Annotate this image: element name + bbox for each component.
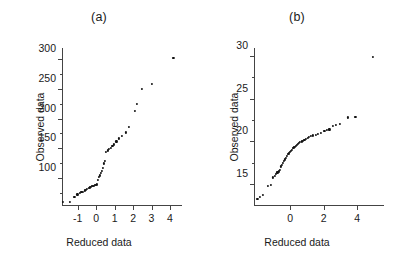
panel-b-point: [274, 175, 276, 177]
panel-a-x-tick-label: 3: [149, 212, 155, 224]
panel-b: (b) 15202530 024 Observed data Reduced d…: [198, 0, 396, 267]
panel-a-point: [151, 83, 153, 85]
panel-a-y-tick: [58, 89, 62, 90]
panel-b-point: [291, 149, 293, 151]
panel-b-x-tick-label: 0: [287, 212, 293, 224]
panel-b-y-minor-tick: [252, 163, 254, 164]
panel-a-point: [103, 163, 105, 165]
panel-a-point: [134, 110, 136, 112]
panel-a-point: [111, 145, 113, 147]
panel-b-point: [332, 125, 334, 127]
panel-a-point: [69, 201, 71, 203]
panel-b-y-tick-label: 30: [236, 39, 248, 51]
panel-a-y-axis-label: Observed data: [34, 93, 46, 162]
panel-b-point: [279, 169, 281, 171]
panel-a-x-tick-label: 2: [130, 212, 136, 224]
panel-a-y-minor-tick: [60, 193, 62, 194]
panel-b-y-tick: [250, 56, 254, 57]
panel-a-point: [62, 201, 64, 203]
panel-a-x-tick-label: 4: [167, 212, 173, 224]
panel-a-y-tick: [58, 178, 62, 179]
panel-a-x-tick: [152, 206, 153, 210]
panel-a-y-axis-line: [62, 48, 63, 206]
panel-b-x-tick: [290, 206, 291, 210]
panel-b-point: [278, 171, 280, 173]
panel-a-x-axis-label: Reduced data: [0, 236, 198, 248]
panel-b-point: [282, 162, 284, 164]
panel-a-x-tick-label: 0: [93, 212, 99, 224]
panel-a-plot-area: 100150200250300 -101234: [62, 48, 182, 206]
panel-a-point: [96, 183, 98, 185]
panel-b-point: [259, 196, 261, 198]
panel-b-y-tick: [250, 99, 254, 100]
panel-b-point: [270, 184, 272, 186]
panel-b-y-axis-label: Observed data: [228, 93, 240, 162]
panel-b-title: (b): [198, 10, 396, 24]
panel-a-y-tick: [58, 59, 62, 60]
panel-b-y-minor-tick: [252, 120, 254, 121]
panel-b-y-axis-line: [254, 48, 255, 206]
panel-a-point: [118, 138, 120, 140]
panel-a-point: [121, 135, 123, 137]
panel-a-point: [104, 160, 106, 162]
figure-canvas: (a) 100150200250300 -101234 Observed dat…: [0, 0, 396, 267]
panel-a-point: [128, 126, 130, 128]
panel-b-y-tick: [250, 141, 254, 142]
panel-b-point: [262, 194, 264, 196]
panel-a-point: [98, 176, 100, 178]
panel-a-x-tick: [96, 206, 97, 210]
panel-a-point: [105, 151, 107, 153]
panel-b-point: [284, 159, 286, 161]
panel-a-point: [172, 57, 174, 59]
panel-b-point: [286, 155, 288, 157]
panel-a-x-tick: [133, 206, 134, 210]
panel-a-y-minor-tick: [60, 104, 62, 105]
panel-a-point: [115, 141, 117, 143]
panel-a-x-tick-label: 1: [112, 212, 118, 224]
panel-a-x-tick: [115, 206, 116, 210]
panel-a-point: [73, 196, 75, 198]
panel-b-point: [335, 124, 337, 126]
panel-a-y-tick-label: 100: [38, 161, 56, 173]
panel-b-point: [280, 165, 282, 167]
panel-a-y-tick-label: 250: [38, 72, 56, 84]
panel-a-y-minor-tick: [60, 74, 62, 75]
panel-b-point: [272, 177, 274, 179]
panel-a-point: [113, 144, 115, 146]
panel-a-y-tick-label: 300: [38, 42, 56, 54]
panel-b-point: [283, 160, 285, 162]
panel-b-y-tick-label: 15: [236, 167, 248, 179]
panel-a-x-axis-line: [62, 205, 182, 206]
panel-b-point: [320, 132, 322, 134]
panel-a-x-tick-label: -1: [73, 212, 82, 224]
panel-b-point: [285, 157, 287, 159]
panel-a-point: [100, 172, 102, 174]
panel-b-plot-area: 15202530 024: [254, 48, 384, 206]
panel-b-x-tick-label: 2: [321, 212, 327, 224]
panel-a-point: [99, 175, 101, 177]
panel-b-x-tick-label: 4: [354, 212, 360, 224]
panel-b-point: [338, 123, 340, 125]
panel-b-point: [354, 116, 356, 118]
panel-b-x-tick: [357, 206, 358, 210]
panel-a-title: (a): [0, 10, 198, 24]
panel-b-point: [288, 153, 290, 155]
panel-a-point: [141, 88, 143, 90]
panel-b-point: [281, 164, 283, 166]
panel-b-point: [317, 133, 319, 135]
panel-b-point: [275, 173, 277, 175]
panel-a-point: [102, 167, 104, 169]
panel-a-point: [97, 179, 99, 181]
panel-a-point: [125, 132, 127, 134]
panel-a: (a) 100150200250300 -101234 Observed dat…: [0, 0, 198, 267]
panel-b-y-minor-tick: [252, 77, 254, 78]
panel-b-point: [372, 56, 374, 58]
panel-b-y-tick: [250, 184, 254, 185]
panel-b-point: [328, 128, 330, 130]
panel-a-point: [109, 147, 111, 149]
panel-b-x-tick: [324, 206, 325, 210]
panel-a-y-tick: [58, 119, 62, 120]
panel-a-y-tick: [58, 148, 62, 149]
panel-b-point: [256, 198, 258, 200]
panel-a-x-tick: [78, 206, 79, 210]
